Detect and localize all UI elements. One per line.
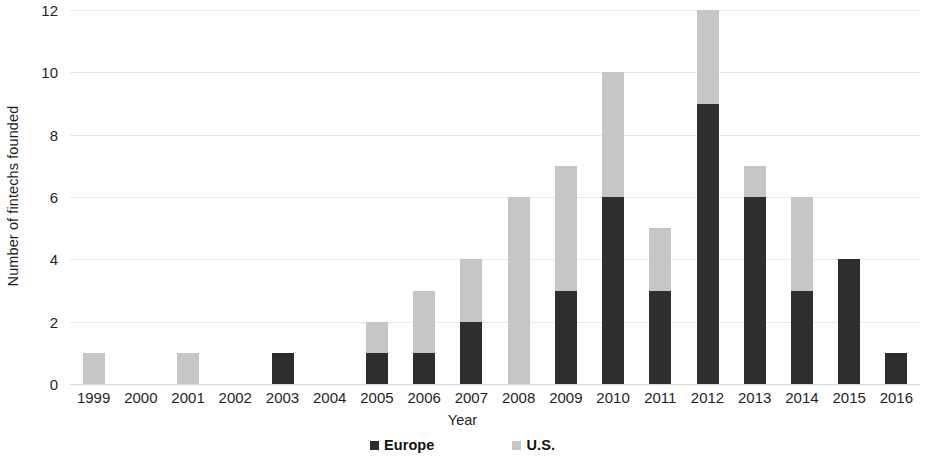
x-axis-title: Year <box>0 412 925 428</box>
gridline <box>70 384 920 385</box>
bar-segment-europe[interactable] <box>791 291 813 385</box>
x-axis-tick-label: 2000 <box>124 389 157 406</box>
x-axis-tick-label: 2006 <box>407 389 440 406</box>
bar-group[interactable] <box>697 10 719 384</box>
bar-segment-us[interactable] <box>460 259 482 321</box>
x-axis-tick-label: 2013 <box>738 389 771 406</box>
bar-segment-europe[interactable] <box>744 197 766 384</box>
bar-group[interactable] <box>649 228 671 384</box>
legend-item-us[interactable]: U.S. <box>512 437 555 453</box>
x-axis-tick-label: 2009 <box>549 389 582 406</box>
bar-segment-us[interactable] <box>697 10 719 104</box>
bar-segment-europe[interactable] <box>413 353 435 384</box>
y-axis-tick-label: 4 <box>50 251 58 268</box>
y-axis-tick-label: 10 <box>41 64 58 81</box>
bar-group[interactable] <box>791 197 813 384</box>
bar-group[interactable] <box>744 166 766 384</box>
legend-label: Europe <box>384 437 435 453</box>
y-axis-tick-label: 12 <box>41 2 58 19</box>
y-axis-tick-labels: 024681012 <box>0 0 70 394</box>
bar-segment-us[interactable] <box>602 72 624 197</box>
x-axis-tick-label: 2014 <box>785 389 818 406</box>
bar-group[interactable] <box>366 322 388 384</box>
legend-swatch-icon <box>370 441 379 450</box>
x-axis-tick-label: 2002 <box>219 389 252 406</box>
legend-label: U.S. <box>526 437 555 453</box>
x-axis-tick-label: 2015 <box>832 389 865 406</box>
y-axis-tick-label: 6 <box>50 189 58 206</box>
x-axis-tick-label: 2010 <box>596 389 629 406</box>
bar-segment-us[interactable] <box>555 166 577 291</box>
x-axis-tick-label: 2004 <box>313 389 346 406</box>
bars-layer <box>70 10 920 384</box>
bar-group[interactable] <box>272 353 294 384</box>
stacked-bar-chart: Number of fintechs founded 024681012 199… <box>0 0 925 464</box>
bar-segment-europe[interactable] <box>555 291 577 385</box>
x-axis-tick-label: 1999 <box>77 389 110 406</box>
x-axis-tick-label: 2001 <box>171 389 204 406</box>
bar-group[interactable] <box>602 72 624 384</box>
chart-legend: EuropeU.S. <box>0 437 925 453</box>
bar-group[interactable] <box>177 353 199 384</box>
bar-group[interactable] <box>508 197 530 384</box>
y-axis-tick-label: 2 <box>50 313 58 330</box>
bar-segment-europe[interactable] <box>460 322 482 384</box>
bar-group[interactable] <box>885 353 907 384</box>
x-axis-tick-label: 2008 <box>502 389 535 406</box>
x-axis-tick-label: 2003 <box>266 389 299 406</box>
bar-group[interactable] <box>413 291 435 384</box>
bar-group[interactable] <box>555 166 577 384</box>
bar-segment-europe[interactable] <box>697 104 719 385</box>
bar-segment-europe[interactable] <box>272 353 294 384</box>
bar-segment-europe[interactable] <box>838 259 860 384</box>
x-axis-tick-label: 2016 <box>880 389 913 406</box>
bar-segment-us[interactable] <box>83 353 105 384</box>
x-axis-tick-label: 2007 <box>455 389 488 406</box>
bar-segment-us[interactable] <box>649 228 671 290</box>
x-axis-tick-label: 2012 <box>691 389 724 406</box>
bar-segment-us[interactable] <box>508 197 530 384</box>
bar-group[interactable] <box>83 353 105 384</box>
bar-segment-us[interactable] <box>744 166 766 197</box>
y-axis-tick-label: 8 <box>50 126 58 143</box>
bar-segment-us[interactable] <box>366 322 388 353</box>
x-axis-tick-label: 2005 <box>360 389 393 406</box>
bar-segment-europe[interactable] <box>602 197 624 384</box>
bar-segment-us[interactable] <box>413 291 435 353</box>
y-axis-tick-label: 0 <box>50 376 58 393</box>
legend-swatch-icon <box>512 441 521 450</box>
bar-group[interactable] <box>838 259 860 384</box>
bar-segment-europe[interactable] <box>366 353 388 384</box>
bar-segment-us[interactable] <box>177 353 199 384</box>
legend-item-europe[interactable]: Europe <box>370 437 435 453</box>
bar-segment-europe[interactable] <box>649 291 671 385</box>
bar-segment-europe[interactable] <box>885 353 907 384</box>
x-axis-title-label: Year <box>448 412 477 428</box>
bar-group[interactable] <box>460 259 482 384</box>
plot-area <box>70 10 920 384</box>
x-axis-tick-label: 2011 <box>644 389 676 406</box>
bar-segment-us[interactable] <box>791 197 813 291</box>
